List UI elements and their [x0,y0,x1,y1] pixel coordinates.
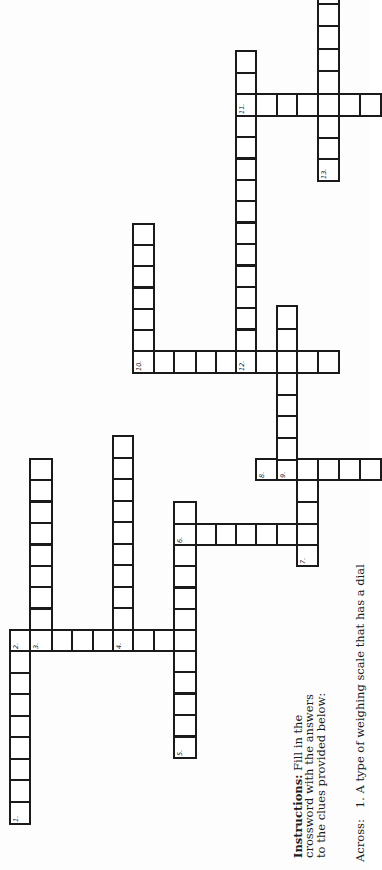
clue-1-number: 1. [353,797,367,808]
crossword-cell[interactable] [359,93,382,117]
crossword-cell[interactable] [132,629,155,652]
crossword-cell[interactable]: 11. [235,93,257,117]
crossword-cell[interactable] [276,350,298,374]
crossword-cell[interactable]: 9. [276,458,298,481]
crossword-cell[interactable] [112,564,134,588]
crossword-cell[interactable] [195,523,217,546]
crossword-cell[interactable] [173,671,197,694]
crossword-cell[interactable] [235,158,257,181]
crossword-cell[interactable] [296,93,319,117]
crossword-cell[interactable] [112,521,134,545]
crossword-cell[interactable] [235,200,257,223]
crossword-cell[interactable] [29,586,53,609]
crossword-cell[interactable] [235,179,257,202]
crossword-cell[interactable]: 1. [9,801,31,825]
crossword-cell[interactable] [132,329,155,352]
crossword-cell[interactable]: 4. [112,629,134,652]
crossword-cell[interactable] [173,587,197,610]
instructions-line-3: to the clues provided below: [314,693,328,858]
crossword-cell[interactable] [29,522,53,545]
crossword-cell[interactable] [235,115,257,138]
crossword-cell[interactable] [235,265,257,288]
crossword-cell[interactable] [112,478,134,502]
crossword-cell[interactable] [92,629,114,652]
crossword-cell[interactable] [276,437,298,461]
crossword-cell[interactable] [173,650,197,673]
crossword-cell[interactable] [235,222,257,245]
crossword-cell[interactable]: 10. [132,350,155,374]
crossword-cell[interactable] [9,779,31,803]
crossword-cell[interactable] [317,115,340,139]
crossword-cell[interactable] [132,308,155,331]
crossword-cell[interactable] [276,305,298,330]
crossword-cell[interactable] [255,523,278,546]
crossword-cell[interactable] [317,350,340,374]
crossword-cell[interactable] [71,629,94,652]
crossword-cell[interactable] [9,693,31,717]
crossword-cell[interactable] [153,629,175,652]
crossword-cell[interactable]: 7. [296,544,319,567]
crossword-cell[interactable] [29,479,53,502]
crossword-cell[interactable] [29,565,53,588]
crossword-cell[interactable]: 8. [255,458,278,481]
crossword-cell[interactable] [317,458,340,481]
crossword-cell[interactable] [235,136,257,159]
crossword-cell[interactable] [173,714,197,737]
crossword-cell[interactable] [235,286,257,309]
crossword-cell[interactable] [132,265,155,288]
crossword-cell[interactable] [235,50,257,74]
crossword-cell[interactable] [153,350,175,374]
crossword-cell[interactable] [359,458,382,481]
crossword-cell[interactable] [276,93,298,117]
crossword-cell[interactable] [29,608,53,631]
crossword-cell[interactable]: 3. [29,629,53,652]
crossword-cell[interactable] [132,244,155,267]
crossword-cell[interactable] [173,693,197,716]
crossword-cell[interactable] [317,25,340,50]
crossword-cell[interactable] [235,307,257,330]
crossword-cell[interactable] [296,350,319,374]
crossword-cell[interactable] [317,70,340,95]
crossword-cell[interactable] [173,501,197,525]
crossword-cell[interactable] [255,93,278,117]
crossword-cell[interactable] [132,223,155,246]
crossword-cell[interactable] [215,350,237,374]
crossword-cell[interactable] [235,523,257,546]
crossword-cell[interactable]: 12. [235,350,257,374]
crossword-cell[interactable] [276,523,298,546]
crossword-cell[interactable] [338,458,361,481]
crossword-cell[interactable] [173,608,197,631]
crossword-cell[interactable] [29,544,53,567]
crossword-cell[interactable] [112,607,134,631]
crossword-cell[interactable] [51,629,73,652]
crossword-cell[interactable] [173,350,197,374]
crossword-cell[interactable] [9,650,31,674]
crossword-cell[interactable] [112,435,134,459]
crossword-cell[interactable] [296,523,319,546]
crossword-cell[interactable] [195,350,217,374]
crossword-cell[interactable] [235,243,257,266]
crossword-cell[interactable] [215,523,237,546]
instructions-text-3: to the clues provided below: [314,693,328,858]
crossword-cell[interactable] [29,501,53,524]
crossword-cell[interactable] [338,93,361,117]
crossword-cell[interactable]: 2. [9,629,31,652]
crossword-cell[interactable]: 6. [173,523,197,546]
crossword-cell[interactable] [173,565,197,588]
crossword-cell[interactable] [132,287,155,310]
crossword-cell[interactable] [276,415,298,439]
across-clue-line: Across: 1. A type of weighing scale that… [353,564,367,862]
crossword-cell[interactable] [235,329,257,352]
crossword-cell[interactable] [296,501,319,525]
crossword-cell[interactable] [296,458,319,481]
crossword-cell[interactable] [29,458,53,481]
crossword-cell[interactable] [296,479,319,503]
crossword-cell[interactable]: 5. [173,736,197,759]
crossword-cell[interactable] [255,350,278,374]
crossword-cell[interactable] [276,372,298,396]
crossword-cell[interactable] [173,629,197,652]
crossword-cell[interactable]: 13. [317,158,340,182]
crossword-cell[interactable] [173,544,197,567]
crossword-cell[interactable] [9,736,31,760]
crossword-cell[interactable] [317,93,340,117]
